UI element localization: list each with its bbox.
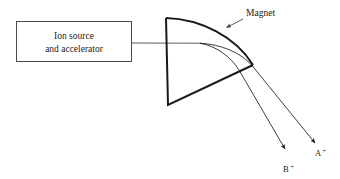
- diagram-canvas: Ion source and accelerator Magnet A + B …: [0, 0, 340, 179]
- magnet-wedge: [166, 18, 253, 105]
- beam-b-label: B: [283, 164, 289, 174]
- ion-source-box-outline: [17, 22, 132, 62]
- magnet-label: Magnet: [246, 8, 275, 18]
- ion-source-box: Ion source and accelerator: [17, 22, 132, 62]
- ion-source-label-line1: Ion source: [54, 31, 94, 41]
- beam-a-label-group: A +: [315, 148, 327, 158]
- ion-source-label-line2: and accelerator: [45, 44, 104, 54]
- beam-a-label: A: [315, 148, 322, 158]
- beam-a-charge-superscript: +: [323, 148, 327, 154]
- magnet-wedge-arc-edge: [166, 18, 253, 65]
- mass-spectrometer-diagram: Ion source and accelerator Magnet A + B …: [0, 0, 340, 179]
- beam-b-label-group: B +: [283, 164, 295, 174]
- magnet-wedge-straight-edges: [166, 18, 253, 105]
- magnet-leader-line: [227, 19, 244, 28]
- beam-b-path: [200, 43, 285, 149]
- beam-a-path: [200, 43, 315, 143]
- beam-b-charge-superscript: +: [291, 164, 295, 170]
